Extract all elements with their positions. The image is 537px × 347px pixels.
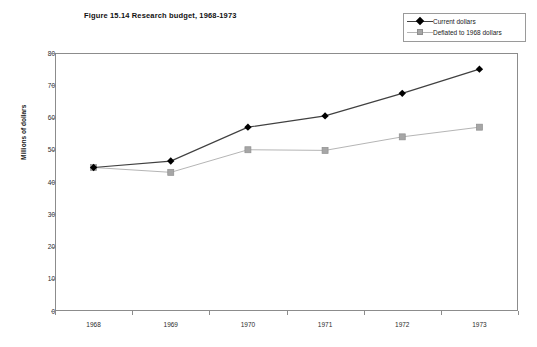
data-point-square <box>476 124 482 130</box>
series-line <box>94 127 480 172</box>
series-layer <box>0 0 537 347</box>
data-point-diamond <box>399 90 406 97</box>
data-point-diamond <box>244 123 251 130</box>
data-point-diamond <box>321 112 328 119</box>
data-point-square <box>322 147 328 153</box>
data-point-square <box>168 169 174 175</box>
data-point-diamond <box>167 157 174 164</box>
data-point-square <box>245 147 251 153</box>
research-budget-line-chart: Figure 15.14 Research budget, 1968-1973 … <box>0 0 537 347</box>
data-point-square <box>399 134 405 140</box>
data-point-diamond <box>476 65 483 72</box>
series-line <box>94 69 480 167</box>
